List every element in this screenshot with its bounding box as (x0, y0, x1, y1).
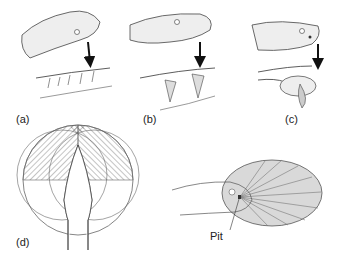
panel-c-head (252, 22, 319, 64)
panel-a-head (22, 11, 100, 62)
panel-label-d: (d) (16, 236, 29, 248)
pit-callout: Pit (210, 230, 223, 242)
panel-label-c: (c) (285, 113, 298, 125)
panel-label-a: (a) (16, 113, 29, 125)
pit-diagram (172, 160, 322, 230)
panel-b-head (130, 14, 211, 62)
panel-b-jaw (140, 68, 215, 110)
figure-canvas (0, 0, 340, 259)
panel-a-jaw (36, 68, 112, 98)
panel-c-fang (258, 66, 316, 108)
panel-label-b: (b) (143, 113, 156, 125)
